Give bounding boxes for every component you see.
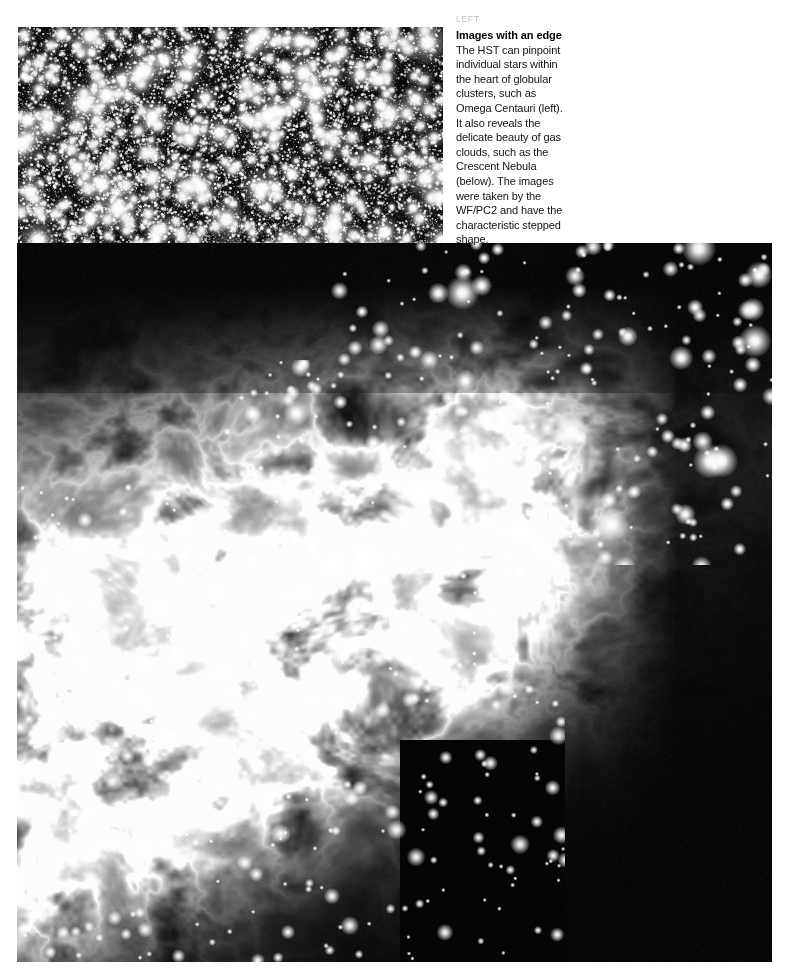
caption-body: The HST can pinpoint individual stars wi… — [456, 43, 568, 247]
crescent-nebula-image — [17, 243, 772, 962]
page-canvas: LEFT Images with an edge The HST can pin… — [0, 0, 791, 980]
figure-crescent-nebula — [17, 243, 772, 962]
caption-kicker: LEFT — [456, 14, 568, 25]
caption-headline: Images with an edge — [456, 28, 568, 43]
caption: LEFT Images with an edge The HST can pin… — [456, 14, 568, 247]
